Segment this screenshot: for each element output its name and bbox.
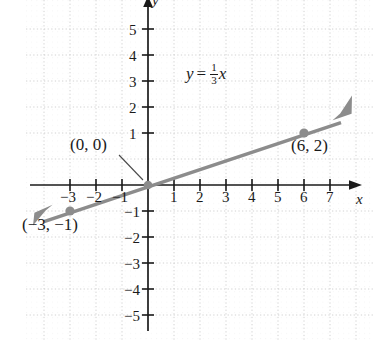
x-tick-label--3: −3 — [60, 190, 76, 205]
x-tick-label--2: −2 — [86, 190, 102, 205]
y-tick-label--1: −1 — [124, 205, 140, 220]
x-tick-label-3: 3 — [222, 190, 230, 205]
x-axis-label: x — [356, 192, 363, 207]
label-point-origin: (0, 0) — [70, 136, 107, 153]
fraction-one-third: 13 — [210, 62, 218, 86]
fraction-denominator: 3 — [210, 75, 218, 87]
x-tick-label-1: 1 — [170, 190, 178, 205]
label-point-6-2: (6, 2) — [291, 137, 328, 154]
y-tick-label--3: −3 — [124, 257, 140, 272]
y-tick-label--4: −4 — [124, 283, 140, 298]
graph-figure: y x −3 −2 −1 1 2 3 4 5 6 7 5 4 3 2 1 −1 … — [0, 0, 373, 340]
coordinate-plane — [0, 0, 373, 340]
x-tick-label--1: −1 — [112, 190, 128, 205]
y-tick-label--2: −2 — [124, 231, 140, 246]
y-tick-label-4: 4 — [129, 49, 137, 64]
x-tick-label-2: 2 — [196, 190, 204, 205]
x-tick-label-7: 7 — [326, 190, 334, 205]
y-tick-label-1: 1 — [129, 127, 137, 142]
x-tick-label-5: 5 — [274, 190, 282, 205]
point-origin — [144, 181, 153, 190]
equation-annotation: y=13x — [186, 62, 226, 86]
equation-lhs: y — [186, 64, 194, 83]
equation-operator: = — [197, 64, 207, 83]
x-tick-label-6: 6 — [300, 190, 308, 205]
y-tick-label--5: −5 — [124, 309, 140, 324]
fraction-numerator: 1 — [210, 62, 218, 75]
label-point-neg3-neg1: (−3, −1) — [22, 216, 78, 233]
y-tick-label-2: 2 — [129, 101, 137, 116]
y-axis-label: y — [152, 0, 159, 8]
y-tick-label-5: 5 — [129, 23, 137, 38]
x-tick-label-4: 4 — [248, 190, 256, 205]
equation-variable: x — [219, 64, 227, 83]
y-tick-label-3: 3 — [129, 75, 137, 90]
